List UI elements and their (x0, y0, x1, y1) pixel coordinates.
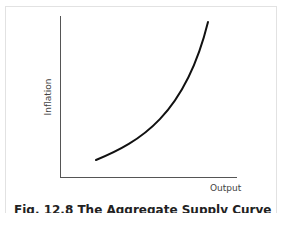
figure-caption: Fig. 12.8 The Aggregate Supply Curve (14, 203, 271, 213)
aggregate-supply-curve (96, 22, 208, 160)
x-axis-label: Output (210, 183, 241, 193)
y-axis-label: Inflation (43, 79, 53, 116)
